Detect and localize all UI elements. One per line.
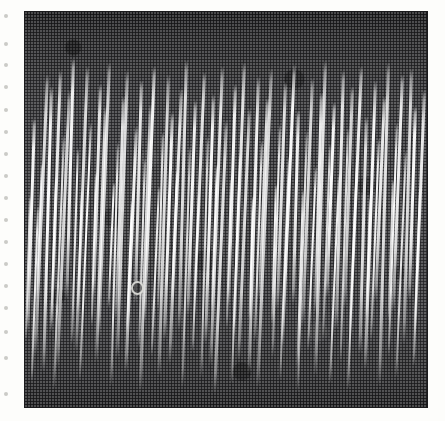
scan-edge-mark <box>4 152 8 156</box>
scan-edge-mark <box>4 130 8 134</box>
scan-edge-mark <box>4 356 8 360</box>
scan-edge-mark <box>4 392 8 396</box>
page-canvas <box>0 0 445 421</box>
halftone-photograph-plate <box>25 12 427 407</box>
scan-edge-mark <box>4 306 8 310</box>
scan-edge-mark <box>4 63 8 67</box>
scan-edge-mark <box>4 85 8 89</box>
scan-edge-mark <box>4 108 8 112</box>
scan-edge-mark <box>4 42 8 46</box>
scan-edge-mark <box>4 284 8 288</box>
oscillograph-trace-layer <box>25 12 427 407</box>
scan-edge-mark <box>4 218 8 222</box>
scan-edge-mark <box>4 14 8 18</box>
scan-edge-mark <box>4 174 8 178</box>
scan-edge-mark <box>4 240 8 244</box>
scan-edge-marks <box>0 0 14 421</box>
scan-edge-mark <box>4 196 8 200</box>
scan-edge-mark <box>4 262 8 266</box>
emulsion-ring-blemish <box>131 281 144 295</box>
scan-edge-mark <box>4 330 8 334</box>
